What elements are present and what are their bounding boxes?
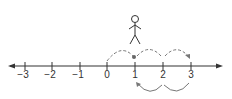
number-line-diagram: −3 −2 −1 0 1 2 3 bbox=[0, 0, 232, 99]
tick-label-neg2: −2 bbox=[44, 69, 55, 80]
tick-label-neg3: −3 bbox=[17, 69, 28, 80]
backward-jump-arcs bbox=[138, 83, 189, 91]
marked-point-dot bbox=[132, 55, 136, 59]
right-arrow-icon bbox=[216, 64, 223, 69]
forward-jump-arcs bbox=[107, 50, 189, 62]
stick-figure-icon bbox=[129, 16, 141, 45]
tick-label-3: 3 bbox=[188, 69, 194, 80]
tick-label-0: 0 bbox=[104, 69, 110, 80]
tick-label-neg1: −1 bbox=[72, 69, 83, 80]
forward-arrowhead-icon bbox=[185, 54, 190, 59]
left-arrow-icon bbox=[8, 64, 15, 69]
tick-label-1: 1 bbox=[132, 69, 138, 80]
tick-label-2: 2 bbox=[160, 69, 166, 80]
